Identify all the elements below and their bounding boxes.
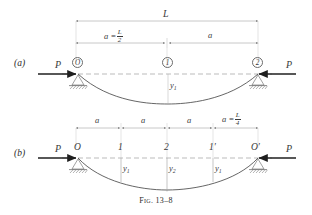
- dimension-label-b-a1: a: [95, 115, 99, 125]
- dimension-label-b-a4: a =L4: [222, 112, 241, 127]
- dim-expr-lead: a =: [104, 31, 116, 41]
- panel-label-a: (a): [14, 58, 25, 68]
- deflection-subscript: 2: [173, 168, 176, 174]
- deflection-label-y2-b: y2: [169, 163, 176, 174]
- figure-caption: Fig. 13–8: [0, 196, 312, 205]
- node-1-a[interactable]: 1: [162, 57, 173, 68]
- dimension-label-a-half: a =L2: [104, 29, 123, 44]
- dimension-label-b-a3: a: [187, 115, 191, 125]
- deflection-label-y1-b: y1: [123, 163, 130, 174]
- dim-expr-lead: a =: [222, 114, 234, 124]
- support-triangle: [72, 75, 84, 85]
- deflection-label-y1-prime-b: y1: [215, 163, 222, 174]
- deflection-subscript: 1: [127, 168, 130, 174]
- panel-b: [38, 123, 296, 192]
- fraction-denominator: 2: [117, 37, 123, 44]
- fraction-L-over-4: L4: [235, 112, 241, 127]
- support-triangle: [252, 159, 264, 169]
- node-2-b[interactable]: 2: [164, 142, 169, 152]
- ground-hatching: [250, 86, 268, 89]
- node-O-prime-b[interactable]: O′: [251, 142, 260, 152]
- node-1-b[interactable]: 1: [118, 142, 123, 152]
- support-right-b: [249, 159, 268, 173]
- deflection-subscript: 1: [219, 168, 222, 174]
- ground-hatching: [70, 86, 88, 89]
- caption-number: 13–8: [156, 196, 173, 205]
- dimension-label-a-right: a: [208, 30, 212, 40]
- caption-prefix: Fig.: [139, 196, 153, 205]
- support-right-a: [249, 75, 268, 89]
- support-triangle: [252, 75, 264, 85]
- ground-hatching: [70, 170, 88, 173]
- support-triangle: [72, 159, 84, 169]
- node-2-a[interactable]: 2: [252, 57, 263, 68]
- buckled-shape-curve: [78, 158, 258, 190]
- load-label-left-a: P: [55, 59, 61, 70]
- dimension-label-b-a2: a: [141, 115, 145, 125]
- deflection-subscript: 1: [174, 85, 177, 91]
- load-label-left-b: P: [55, 143, 61, 154]
- panel-label-b: (b): [14, 148, 25, 158]
- node-O-a[interactable]: O: [72, 57, 83, 68]
- dimension-label-L: L: [163, 8, 169, 19]
- load-label-right-a: P: [286, 59, 292, 70]
- load-label-right-b: P: [286, 143, 292, 154]
- support-left-a: [69, 75, 88, 89]
- support-left-b: [69, 159, 88, 173]
- figure-canvas: [0, 0, 312, 215]
- fraction-L-over-2: L2: [117, 29, 123, 44]
- node-1-prime-b[interactable]: 1′: [209, 142, 216, 152]
- deflection-label-y1-a: y1: [170, 80, 177, 91]
- fraction-denominator: 4: [235, 120, 241, 127]
- node-O-b[interactable]: O: [74, 142, 81, 152]
- ground-hatching: [250, 170, 268, 173]
